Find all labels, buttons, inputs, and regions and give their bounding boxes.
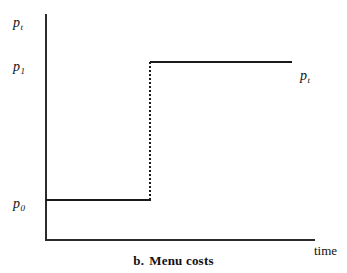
y-axis-label-subscript: t <box>21 22 24 32</box>
y-axis-line <box>45 14 47 241</box>
menu-costs-figure: pt p1 p0 pt time b.Menu costs <box>0 0 347 273</box>
series-segment-pre-adjustment <box>46 199 151 201</box>
price-level-high-label: p1 <box>13 60 25 74</box>
x-axis-line <box>45 239 315 241</box>
y-axis-label: pt <box>13 16 23 30</box>
figure-caption: b.Menu costs <box>0 253 347 269</box>
series-label-text: p <box>300 68 307 83</box>
price-level-low-label: p0 <box>13 197 25 211</box>
price-level-low-subscript: 0 <box>21 203 26 213</box>
figure-caption-title: Menu costs <box>149 253 213 268</box>
price-level-high-subscript: 1 <box>21 66 26 76</box>
series-label-subscript: t <box>308 75 311 85</box>
y-axis-label-text: p <box>13 15 20 30</box>
price-level-high-text: p <box>13 59 20 74</box>
figure-caption-label: b. <box>133 253 144 268</box>
price-level-low-text: p <box>13 196 20 211</box>
series-segment-price-jump-dotted <box>149 62 151 200</box>
series-label: pt <box>300 69 310 83</box>
series-segment-post-adjustment <box>150 61 292 63</box>
